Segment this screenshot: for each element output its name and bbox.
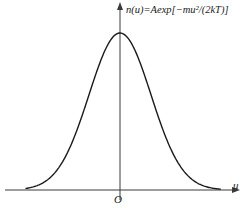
origin-label: O <box>114 193 122 205</box>
x-axis-label: u <box>233 179 239 191</box>
distribution-curve <box>25 33 220 189</box>
gaussian-chart <box>0 0 243 208</box>
formula-label: n(u)=Aexp[−mu²/(2kT)] <box>126 4 228 15</box>
y-axis-arrow-icon <box>117 2 123 10</box>
